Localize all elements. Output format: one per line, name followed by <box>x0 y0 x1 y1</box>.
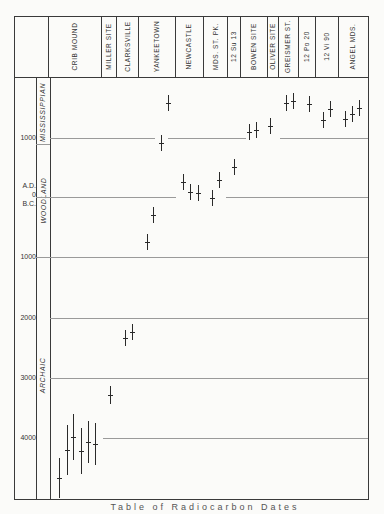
column-header-12-vi-90: 12 Vi 90 <box>315 16 338 77</box>
frame-right-border <box>368 16 369 500</box>
gridline-1000-ad <box>280 138 368 139</box>
column-header-mds-st-pk: MDS. ST. PK. <box>203 16 227 77</box>
data-point-clarksville <box>125 330 126 346</box>
data-point-crib-mound <box>73 414 74 460</box>
column-label: CRIB MOUND <box>71 23 78 71</box>
column-label: OLIVER SITE <box>269 23 276 70</box>
column-header-greismer-st: GREISMER ST. <box>278 16 298 77</box>
data-point-bowen-site <box>249 124 250 140</box>
data-point-angel-mds <box>359 100 360 116</box>
period-boundary <box>36 144 50 145</box>
column-label: NEWCASTLE <box>186 24 193 70</box>
period-woodland: WOODLAND <box>36 160 50 240</box>
period-mississippian: MISSISSIPPIAN <box>36 84 50 140</box>
gridline-1000-bc <box>36 257 368 258</box>
gridline-4000 <box>103 438 368 439</box>
column-header-clarksville: CLARKSVILLE <box>116 16 138 77</box>
y-tick-4000: 4000 <box>14 434 36 441</box>
header-bottom-border <box>14 77 369 78</box>
data-point-crib-mound <box>88 421 89 463</box>
data-point-yankeetown <box>153 207 154 223</box>
column-header-newcastle: NEWCASTLE <box>175 16 203 77</box>
data-point-angel-mds <box>352 106 353 122</box>
period-divider <box>50 77 51 499</box>
data-point-mds-st-pk <box>219 172 220 188</box>
data-point-mds-st-pk <box>212 190 213 206</box>
data-point-yankeetown <box>161 135 162 151</box>
gridline-2000 <box>50 318 368 319</box>
column-header-miller-site: MILLER SITE <box>101 16 116 77</box>
gridline-1000-ad <box>168 138 246 139</box>
column-label: MILLER SITE <box>105 23 112 69</box>
column-label: MDS. ST. PK. <box>212 23 219 70</box>
column-label: 12 Su 13 <box>230 31 237 62</box>
data-point-miller-site <box>110 386 111 404</box>
column-header-angel-mds: ANGEL MDS. <box>338 16 368 77</box>
y-tick-ad: A.D. <box>14 182 36 189</box>
column-label: GREISMER ST. <box>285 20 292 73</box>
data-point-yankeetown <box>168 95 169 111</box>
data-point-12-vi-90 <box>330 101 331 117</box>
column-header-oliver-site: OLIVER SITE <box>267 16 278 77</box>
y-tick-2000: 2000 <box>14 314 36 321</box>
column-label: ANGEL MDS. <box>350 24 357 70</box>
data-point-angel-mds <box>345 111 346 127</box>
axis-divider <box>36 77 37 499</box>
data-point-oliver-site <box>270 118 271 134</box>
column-label: BOWEN SITE <box>250 23 257 70</box>
period-label: MISSISSIPPIAN <box>40 82 47 141</box>
gridline-1000-ad <box>50 138 155 139</box>
data-point-yankeetown <box>147 234 148 250</box>
column-label: 12 Vi 90 <box>323 32 330 61</box>
data-point-greismer-st <box>293 93 294 109</box>
y-tick-1000-ad: 1000 <box>14 134 36 141</box>
gridline-3000 <box>50 378 368 379</box>
column-header-12-po-20: 12 Po 20 <box>298 16 315 77</box>
data-point-12-po-20 <box>309 96 310 112</box>
period-label: ARCHAIC <box>40 357 47 393</box>
data-point-12-vi-90 <box>323 112 324 128</box>
figure-caption: Table of Radiocarbon Dates <box>90 502 320 514</box>
y-tick-3000: 3000 <box>14 374 36 381</box>
data-point-crib-mound <box>95 423 96 465</box>
period-label: WOODLAND <box>40 177 47 223</box>
data-point-newcastle <box>183 174 184 190</box>
data-point-bowen-site <box>256 122 257 138</box>
data-point-newcastle <box>190 184 191 200</box>
gridline-zero <box>36 197 176 198</box>
y-tick-1000-bc: 1000 <box>14 253 36 260</box>
data-point-crib-mound <box>81 428 82 474</box>
column-label: 12 Po 20 <box>303 31 310 62</box>
gridline-zero <box>226 197 368 198</box>
y-tick-bc: B.C. <box>14 200 36 207</box>
frame-bottom-border <box>14 499 369 500</box>
data-point-crib-mound <box>67 425 68 475</box>
period-archaic: ARCHAIC <box>36 340 50 410</box>
column-header-12-su-13: 12 Su 13 <box>227 16 240 77</box>
data-point-clarksville <box>132 324 133 340</box>
column-header-bowen-site: BOWEN SITE <box>240 16 267 77</box>
data-point-greismer-st <box>286 95 287 111</box>
column-header-yankeetown: YANKEETOWN <box>138 16 175 77</box>
column-label: YANKEETOWN <box>153 21 160 73</box>
y-tick-zero: 0 <box>14 191 36 198</box>
column-header-crib-mound: CRIB MOUND <box>48 16 101 77</box>
data-point-newcastle <box>198 185 199 201</box>
data-point-crib-mound <box>59 458 60 498</box>
column-label: CLARKSVILLE <box>124 21 131 71</box>
data-point-12-su-13 <box>234 159 235 175</box>
